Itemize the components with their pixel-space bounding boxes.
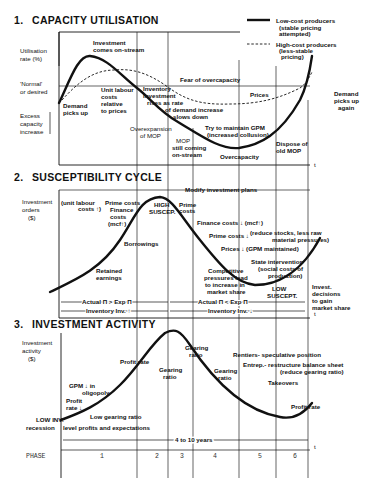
ann-demand: Demand bbox=[63, 102, 88, 109]
legend-solid-sub2: attempted) bbox=[279, 30, 311, 37]
legend: Low-cost producers (stable pricing attem… bbox=[247, 17, 337, 60]
ann2-ulc-2: costs ↑) bbox=[78, 205, 101, 212]
ann-fear: Fear of overcapacity bbox=[180, 76, 241, 83]
y2-label-2: orders bbox=[22, 206, 40, 213]
ann-inventory: Inventory bbox=[143, 85, 171, 92]
y-label-desired: or desired bbox=[20, 88, 48, 95]
phase-2: 2 bbox=[155, 453, 159, 460]
y3-label-1: Investment bbox=[22, 339, 53, 346]
ann2-invest-4: market share bbox=[312, 304, 351, 311]
y-label-utilisation: Utilisation bbox=[20, 47, 47, 54]
y-label-excess: Excess bbox=[20, 112, 40, 119]
ann2-borrowings: Borrowings bbox=[124, 240, 159, 247]
y2-label-3: ($) bbox=[28, 214, 36, 221]
y-label-capacity: capacity bbox=[20, 120, 44, 127]
t-label-2: t bbox=[314, 310, 316, 317]
ann2-high-2: SUSCEP. bbox=[149, 208, 176, 215]
ann-mop-3: on-stream bbox=[172, 151, 202, 158]
phase-3: 3 bbox=[180, 453, 184, 460]
ann-inventory-5: slows down bbox=[173, 113, 208, 120]
ann2-prime3: Prime costs ↓ bbox=[209, 232, 249, 239]
ann2-finance2: Finance costs ↓ (mcf↑) bbox=[197, 219, 263, 226]
investment-activity-panel: 3. INVESTMENT ACTIVITY Investment activi… bbox=[14, 318, 344, 478]
ann3-years: 4 to 10 years bbox=[175, 436, 213, 443]
ann2-low-2: SUSCEPT. bbox=[267, 292, 298, 299]
ann-mop-2: still coming bbox=[172, 144, 207, 151]
ann3-takeovers: Takeovers bbox=[268, 379, 299, 386]
phase-1: 1 bbox=[100, 453, 104, 460]
ann-prices: Prices bbox=[250, 91, 269, 98]
ann2-state-2: (social costs of bbox=[258, 265, 304, 272]
ann3-gpm: GPM ↓ in bbox=[69, 382, 95, 389]
y-label-normal: 'Normal' bbox=[20, 80, 42, 87]
ann3-gearing-up-2: ratio bbox=[163, 373, 177, 380]
high-cost-curve bbox=[62, 70, 312, 104]
ann2-high: HIGH bbox=[154, 201, 170, 208]
phase-4: 4 bbox=[213, 453, 217, 460]
ann2-state: State intervention bbox=[251, 258, 303, 265]
ann3-low-gearing: Low gearing ratio bbox=[90, 413, 142, 420]
ann-inventory-4: of demand increase bbox=[165, 106, 224, 113]
ann2-prices: Prices ↓ (GPM maintained) bbox=[221, 245, 299, 252]
ann2-low: LOW bbox=[272, 285, 287, 292]
ann-dispose-2: old MOP bbox=[276, 147, 301, 154]
ann3-profit2: Profit bbox=[66, 397, 82, 404]
ann3-profit3: Profit rate bbox=[291, 403, 321, 410]
ann2-competitive-2: pressures lead bbox=[204, 274, 248, 281]
ann-investment: Investment bbox=[93, 39, 126, 46]
section-2-number: 2. bbox=[14, 171, 23, 183]
ann2-finance: Finance bbox=[110, 206, 134, 213]
ann2-competitive-3: to increase in bbox=[205, 281, 245, 288]
phase-5: 5 bbox=[258, 453, 262, 460]
section-1-number: 1. bbox=[14, 14, 23, 26]
ann2-prime1: Prime costs bbox=[105, 199, 141, 206]
section-1-title: CAPACITY UTILISATION bbox=[32, 14, 159, 26]
ann-overexp-2: of MOP bbox=[140, 132, 161, 139]
ann2-competitive: Competitive bbox=[208, 267, 244, 274]
ann-mop: MOP bbox=[176, 137, 190, 144]
ann2-prime2-2: costs bbox=[179, 207, 196, 214]
t-label-1: t bbox=[314, 161, 316, 168]
ann2-invest: Invest. bbox=[312, 283, 332, 290]
ann3-entrep-2: (reduce gearing ratio) bbox=[280, 368, 344, 375]
phase-label: PHASE bbox=[26, 453, 46, 460]
ann-inventory-3: rises as rate bbox=[147, 99, 184, 106]
ann2-inv-up: Inventory Inv. ↑ bbox=[86, 307, 131, 314]
ann-inventory-2: investment bbox=[143, 92, 176, 99]
y3-label-3: ($) bbox=[28, 355, 36, 362]
ann-demand-again-3: again bbox=[338, 104, 354, 111]
ann-ulc-3: relative bbox=[101, 100, 123, 107]
section-3-number: 3. bbox=[14, 318, 23, 330]
low-cost-curve bbox=[59, 56, 312, 148]
ann2-modify: Modify investment plans bbox=[185, 186, 258, 193]
ann-demand-2: picks up bbox=[63, 109, 88, 116]
ann3-rentiers: Rentiers- speculative position bbox=[233, 351, 321, 358]
ann3-gearing-peak: Gearing bbox=[185, 344, 209, 351]
ann-ulc-2: costs bbox=[101, 93, 118, 100]
ann2-invest-3: to gain bbox=[312, 297, 332, 304]
ann3-profit2-2: rate ↓ bbox=[66, 404, 82, 411]
y2-label-1: Investment bbox=[22, 198, 53, 205]
ann-overexp: Overexpansion bbox=[130, 125, 172, 132]
ann2-retained: Retained bbox=[96, 267, 122, 274]
ann3-gearing-up: Gearing bbox=[159, 366, 183, 373]
y-label-increase: increase bbox=[20, 128, 44, 135]
ann3-recession: recession bbox=[26, 424, 55, 431]
ann2-state-3: production) bbox=[268, 272, 302, 279]
ann-ulc-4: to prices bbox=[101, 107, 127, 114]
ann3-entrep: Entrep.- restructure balance sheet bbox=[243, 361, 343, 368]
ann3-level: level profits and expectations bbox=[63, 424, 151, 431]
phase-6: 6 bbox=[293, 453, 297, 460]
ann-gpm: Try to maintain GPM bbox=[205, 124, 265, 131]
ann2-actual-gt: Actual Π > Exp Π bbox=[82, 298, 132, 305]
ann2-inv-down: Inventory Inv. ↓ bbox=[208, 307, 253, 314]
ann-demand-again: Demand bbox=[334, 90, 359, 97]
t-label-3: t bbox=[314, 443, 316, 450]
ann2-competitive-4: market share bbox=[207, 288, 246, 295]
ann3-low-inv: LOW INV. bbox=[36, 416, 64, 423]
ann-demand-again-2: picks up bbox=[334, 97, 359, 104]
panel-1-frame bbox=[59, 32, 240, 66]
y-label-rate: rate (%) bbox=[20, 55, 42, 62]
ann2-finance-2: costs bbox=[110, 213, 127, 220]
ann2-retained-2: earnings bbox=[96, 274, 122, 281]
